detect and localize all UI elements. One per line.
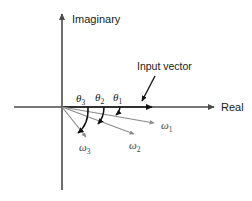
input-vector-leader-line: [142, 76, 155, 101]
theta3-label: θ3: [76, 92, 85, 107]
omega3-subscript: 3: [87, 147, 91, 156]
theta1-subscript: 1: [118, 97, 122, 106]
omega-vectors-group: [62, 107, 154, 137]
theta1-label: θ1: [113, 91, 122, 106]
omega3-label: ω3: [79, 141, 91, 156]
theta1-arc: [116, 107, 120, 115]
omega1-subscript: 1: [169, 125, 173, 134]
figure-canvas: Real Imaginary Input vector θ1: [0, 0, 252, 201]
omega2-subscript: 2: [137, 145, 141, 154]
complex-plane-figure: Real Imaginary Input vector θ1: [0, 0, 252, 201]
theta3-subscript: 3: [81, 98, 85, 107]
input-vector-label: Input vector: [137, 60, 192, 72]
theta-labels-group: θ1 θ2 θ3: [76, 91, 122, 107]
real-axis-label: Real: [221, 101, 244, 113]
omega1-label: ω1: [161, 119, 173, 134]
omega-labels-group: ω1 ω2 ω3: [79, 119, 173, 156]
omega1-vector: [62, 107, 154, 123]
imaginary-axis-label: Imaginary: [72, 13, 121, 25]
theta2-subscript: 2: [100, 97, 104, 106]
omega2-label: ω2: [129, 139, 141, 154]
theta2-label: θ2: [95, 91, 104, 106]
input-vector-annotation: Input vector: [137, 60, 192, 101]
